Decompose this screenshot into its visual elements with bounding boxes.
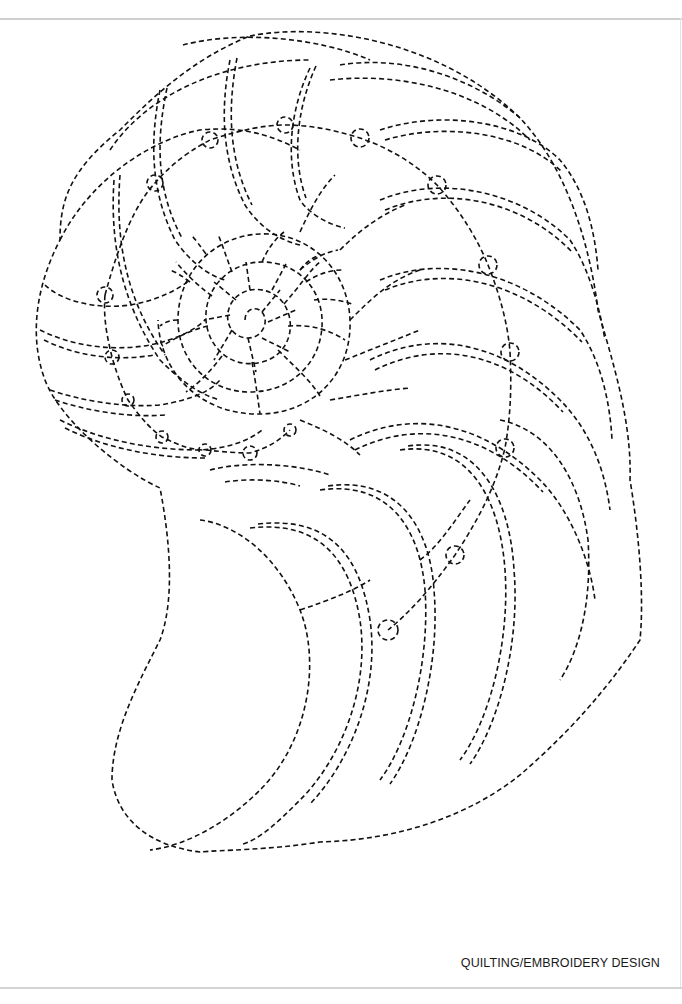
outer-shell-outline [36, 32, 641, 852]
outer-chamber-arcs [40, 37, 612, 600]
siphuncle-beads [97, 117, 519, 640]
bottom-border [0, 987, 682, 989]
siphuncle-line [105, 125, 511, 630]
nautilus-shell-illustration [0, 0, 682, 1004]
inner-spiral [158, 232, 352, 414]
design-caption: QUILTING/EMBROIDERY DESIGN [461, 956, 660, 970]
lower-chamber-arcs [150, 420, 589, 850]
